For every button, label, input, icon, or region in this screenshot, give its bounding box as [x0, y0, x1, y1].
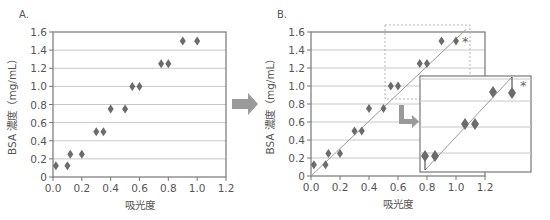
chart-panel-a: 00.20.40.60.81.01.21.41.60.00.20.40.60.8… [6, 9, 234, 211]
x-axis-label: 吸光度 [383, 198, 414, 210]
y-axis-label: BSA 濃度（mg/mL） [6, 54, 18, 155]
x-tick-label: 0.8 [160, 182, 177, 194]
x-tick-label: 0.6 [390, 181, 407, 193]
data-point [325, 149, 331, 158]
data-point [424, 59, 430, 68]
x-axis-label: 吸光度 [125, 199, 156, 211]
y-tick-label: 1.0 [30, 80, 47, 92]
data-point [323, 160, 329, 169]
outlier-asterisk: * [462, 34, 469, 49]
data-point [439, 37, 445, 46]
y-tick-label: 1.4 [288, 44, 305, 56]
data-point [122, 105, 128, 114]
x-tick-label: 0.2 [332, 181, 349, 193]
data-point [137, 82, 143, 91]
y-tick-label: 0.2 [30, 153, 47, 165]
data-point [93, 127, 99, 136]
y-tick-label: 0.2 [288, 152, 305, 164]
data-point [395, 82, 401, 91]
x-tick-label: 0.6 [131, 182, 148, 194]
x-tick-label: 1.2 [477, 181, 494, 193]
x-tick-label: 0.8 [419, 181, 436, 193]
y-tick-label: 1.2 [30, 62, 47, 74]
y-tick-label: 1.0 [288, 80, 305, 92]
figure: 00.20.40.60.81.01.21.41.60.00.20.40.60.8… [0, 0, 550, 220]
panel-label: A. [19, 9, 29, 20]
x-tick-label: 0.0 [45, 182, 62, 194]
y-tick-label: 0.8 [288, 98, 305, 110]
x-tick-label: 1.0 [189, 182, 206, 194]
data-point [366, 104, 372, 113]
data-point [100, 127, 106, 136]
x-tick-label: 1.2 [218, 182, 235, 194]
data-point [352, 127, 358, 136]
y-tick-label: 0.4 [30, 135, 47, 147]
data-point [194, 37, 200, 46]
inset-chart: * [420, 76, 531, 172]
y-axis-label: BSA 濃度（mg/mL） [264, 54, 276, 155]
data-point [359, 127, 365, 136]
x-tick-label: 0.0 [303, 181, 320, 193]
data-point [53, 161, 59, 170]
data-point [108, 105, 114, 114]
panel-label: B. [277, 9, 287, 20]
y-tick-label: 1.2 [288, 62, 305, 74]
y-tick-label: 0.6 [288, 116, 305, 128]
y-tick-label: 1.6 [288, 26, 305, 38]
x-tick-label: 0.4 [102, 182, 119, 194]
data-point [158, 59, 164, 68]
y-tick-label: 1.6 [30, 26, 47, 38]
data-point [79, 150, 85, 159]
y-tick-label: 0.8 [30, 99, 47, 111]
data-point [388, 82, 394, 91]
y-tick-label: 0.6 [30, 117, 47, 129]
y-tick-label: 0.4 [288, 134, 305, 146]
right-arrow-icon [232, 93, 258, 115]
data-point [180, 37, 186, 46]
inset-asterisk: * [520, 78, 527, 93]
data-point [64, 161, 70, 170]
data-point [165, 59, 171, 68]
x-tick-label: 0.4 [361, 181, 378, 193]
x-tick-label: 0.2 [73, 182, 90, 194]
data-point [129, 82, 135, 91]
data-point [311, 160, 317, 169]
data-point [453, 37, 459, 46]
x-tick-label: 1.0 [448, 181, 465, 193]
data-point [417, 59, 423, 68]
data-point [67, 150, 73, 159]
y-tick-label: 1.4 [30, 44, 47, 56]
inset-arrow-icon [399, 105, 419, 128]
